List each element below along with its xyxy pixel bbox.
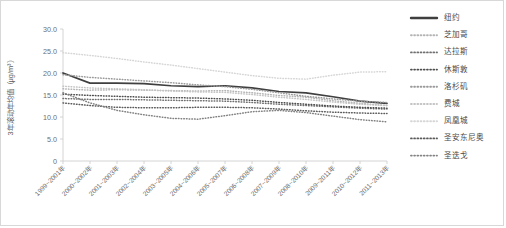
y-tick-label: 25.0 — [43, 47, 57, 56]
x-axis: 1999~2001年2000~2002年2001~2003年2002~2004年… — [33, 161, 392, 198]
chart-frame: 05.010.015.020.025.030.0 1999~2001年2000~… — [0, 0, 504, 226]
y-axis: 05.010.015.020.025.030.0 — [43, 25, 63, 166]
legend-label[interactable]: 纽约 — [444, 12, 460, 22]
y-tick-label: 0 — [53, 157, 57, 166]
legend-label[interactable]: 芝加哥 — [444, 29, 468, 39]
legend-label[interactable]: 休斯敦 — [444, 64, 468, 74]
legend-label[interactable]: 凤凰城 — [444, 116, 468, 125]
series-lines — [63, 53, 387, 122]
y-tick-label: 15.0 — [43, 91, 57, 100]
y-tick-label: 10.0 — [43, 113, 57, 122]
y-axis-title: 3年滚动年均值（μg/m³） — [6, 56, 15, 135]
series-line — [63, 53, 387, 79]
legend-label[interactable]: 费城 — [444, 98, 460, 108]
y-tick-label: 5.0 — [47, 135, 57, 144]
y-tick-label: 20.0 — [43, 69, 57, 78]
legend-label[interactable]: 圣安东尼奥 — [444, 132, 484, 142]
legend-label[interactable]: 达拉斯 — [444, 46, 468, 56]
line-chart: 05.010.015.020.025.030.0 1999~2001年2000~… — [1, 1, 505, 227]
legend-label[interactable]: 圣迭戈 — [444, 150, 468, 160]
chart-legend: 纽约芝加哥达拉斯休斯敦洛杉矶费城凤凰城圣安东尼奥圣迭戈 — [411, 12, 484, 160]
y-tick-label: 30.0 — [43, 25, 57, 34]
legend-label[interactable]: 洛杉矶 — [444, 81, 468, 91]
